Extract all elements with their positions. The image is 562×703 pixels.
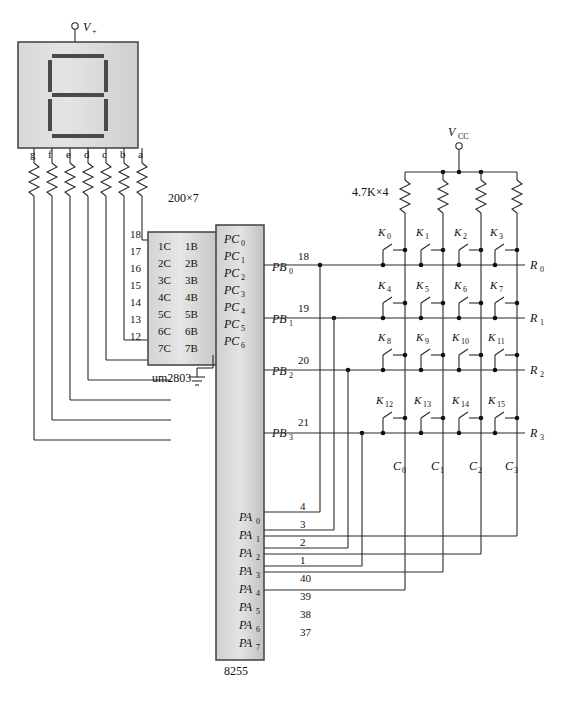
key-K2-label: K bbox=[453, 226, 462, 238]
key-K13-sub: 13 bbox=[423, 400, 431, 409]
port-a-1-sub: 1 bbox=[256, 535, 260, 544]
column-0-sub: 0 bbox=[402, 466, 406, 475]
keypad-resistor-label: 4.7K×4 bbox=[352, 185, 388, 199]
segment-e-bar bbox=[48, 99, 52, 131]
key-K7-sub: 7 bbox=[499, 285, 503, 294]
port-c-5-sub: 5 bbox=[241, 324, 245, 333]
key-switch-K7[interactable]: K 7 bbox=[489, 279, 519, 320]
um2803-pin-12: 12 bbox=[130, 330, 141, 342]
key-switch-K2[interactable]: K 2 bbox=[453, 226, 483, 267]
port-c-3-sub: 3 bbox=[241, 290, 245, 299]
um2803-pin-15: 15 bbox=[130, 279, 142, 291]
row-3-label: R bbox=[529, 426, 538, 440]
key-K15-sub: 15 bbox=[497, 400, 505, 409]
port-b-1-label: PB bbox=[271, 312, 287, 326]
key-K12-label: K bbox=[375, 394, 384, 406]
key-switch-K1[interactable]: K 1 bbox=[415, 226, 445, 267]
key-switch-K5[interactable]: K 5 bbox=[415, 279, 445, 320]
port-b-labels: PB 0 18 PB 1 19 PB 2 20 PB 3 21 bbox=[271, 250, 310, 442]
key-switch-K12[interactable]: K 12 bbox=[375, 394, 407, 435]
key-switch-K13[interactable]: K 13 bbox=[413, 394, 445, 435]
segment-c-bar bbox=[104, 99, 108, 131]
um2803-row-out-3: 3B bbox=[185, 274, 198, 286]
key-switch-K8[interactable]: K 8 bbox=[377, 331, 407, 372]
segment-label-e: e bbox=[66, 148, 71, 160]
key-K5-sub: 5 bbox=[425, 285, 429, 294]
port-b-0-sub: 0 bbox=[289, 267, 293, 276]
port-a-5-sub: 5 bbox=[256, 607, 260, 616]
port-c-0-sub: 0 bbox=[241, 239, 245, 248]
segment-label-d: d bbox=[84, 148, 90, 160]
port-c-5-label: PC bbox=[223, 317, 240, 331]
port-a-5-pin: 39 bbox=[300, 590, 312, 602]
column-2-sub: 2 bbox=[478, 466, 482, 475]
column-0-label: C bbox=[393, 459, 402, 473]
segment-label-g: g bbox=[30, 148, 36, 160]
keypad-column-labels: C 0 C 1 C 2 C 3 bbox=[393, 459, 518, 475]
key-switch-K9[interactable]: K 9 bbox=[415, 331, 445, 372]
port-c-1-sub: 1 bbox=[241, 256, 245, 265]
um2803-row-in-7: 7C bbox=[158, 342, 171, 354]
segment-label-f: f bbox=[48, 148, 52, 160]
segment-a-bar bbox=[52, 54, 104, 58]
keypad-supply-sublabel: CC bbox=[458, 132, 469, 141]
um2803-row-out-5: 5B bbox=[185, 308, 198, 320]
port-b-0-pin: 18 bbox=[298, 250, 310, 262]
row-2-label: R bbox=[529, 363, 538, 377]
port-b-1-sub: 1 bbox=[289, 319, 293, 328]
port-a-0-label: PA bbox=[238, 510, 253, 524]
key-switch-K3[interactable]: K 3 bbox=[489, 226, 519, 267]
key-K15-label: K bbox=[487, 394, 496, 406]
key-K14-label: K bbox=[451, 394, 460, 406]
row-0-sub: 0 bbox=[540, 265, 544, 274]
segment-b-bar bbox=[104, 60, 108, 92]
port-b-1-pin: 19 bbox=[298, 302, 310, 314]
key-K11-label: K bbox=[487, 331, 496, 343]
port-c-6-label: PC bbox=[223, 334, 240, 348]
port-c-0-label: PC bbox=[223, 232, 240, 246]
key-K4-sub: 4 bbox=[387, 285, 391, 294]
key-switch-K15[interactable]: K 15 bbox=[487, 394, 519, 435]
schematic-svg: V + g f e bbox=[0, 0, 562, 703]
key-K3-sub: 3 bbox=[499, 232, 503, 241]
port-c-4-label: PC bbox=[223, 300, 240, 314]
key-K14-sub: 14 bbox=[461, 400, 469, 409]
port-a-0-pin: 4 bbox=[300, 500, 306, 512]
segment-f-bar bbox=[48, 60, 52, 92]
key-K12-sub: 12 bbox=[385, 400, 393, 409]
key-K13-label: K bbox=[413, 394, 422, 406]
key-K2-sub: 2 bbox=[463, 232, 467, 241]
row-2-sub: 2 bbox=[540, 370, 544, 379]
key-switch-K6[interactable]: K 6 bbox=[453, 279, 483, 320]
key-switch-K11[interactable]: K 11 bbox=[487, 331, 519, 372]
key-switch-K10[interactable]: K 10 bbox=[451, 331, 483, 372]
key-K9-label: K bbox=[415, 331, 424, 343]
um2803-pin-13: 13 bbox=[130, 313, 142, 325]
key-switch-K14[interactable]: K 14 bbox=[451, 394, 483, 435]
port-a-7-sub: 7 bbox=[256, 643, 260, 652]
um2803-row-out-7: 7B bbox=[185, 342, 198, 354]
port-a-3-label: PA bbox=[238, 564, 253, 578]
key-K4-label: K bbox=[377, 279, 386, 291]
keypad-supply-label: V bbox=[448, 125, 457, 139]
um2803-row-out-4: 4B bbox=[185, 291, 198, 303]
row-to-port-a-wires bbox=[264, 263, 364, 566]
key-switch-K4[interactable]: K 4 bbox=[377, 279, 407, 320]
port-a-6-pin: 38 bbox=[300, 608, 312, 620]
port-a-1-label: PA bbox=[238, 528, 253, 542]
port-b-0-label: PB bbox=[271, 260, 287, 274]
segment-label-b: b bbox=[120, 148, 126, 160]
port-b-3-sub: 3 bbox=[289, 433, 293, 442]
port-a-5-label: PA bbox=[238, 600, 253, 614]
port-a-3-sub: 3 bbox=[256, 571, 260, 580]
display-supply-sublabel: + bbox=[92, 27, 97, 36]
display-supply-terminal: V + bbox=[72, 20, 97, 42]
key-K10-label: K bbox=[451, 331, 460, 343]
key-K0-label: K bbox=[377, 226, 386, 238]
key-K8-label: K bbox=[377, 331, 386, 343]
um2803-pin-18: 18 bbox=[130, 228, 142, 240]
um2803-label: um2803 bbox=[152, 371, 191, 385]
port-b-2-pin: 20 bbox=[298, 354, 310, 366]
key-switch-K0[interactable]: K 0 bbox=[377, 226, 407, 267]
keypad-supply: V CC bbox=[405, 125, 517, 174]
